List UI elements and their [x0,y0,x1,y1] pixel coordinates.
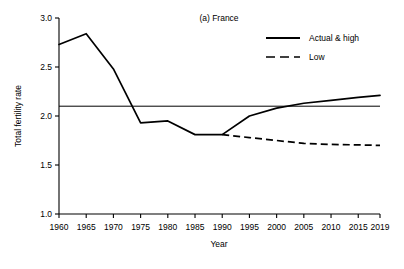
x-tick-label: 2005 [294,222,313,232]
x-tick-label: 1985 [186,222,205,232]
panel-title: (a) France [199,13,238,23]
y-axis-title: Total fertility rate [13,85,23,147]
y-tick-label: 2.5 [40,62,52,72]
legend-label-actual-and-high: Actual & high [309,33,359,43]
x-tick-label: 2000 [267,222,286,232]
chart-figure: 1.01.52.02.53.0 196019651970197519801985… [0,0,404,269]
y-tick-label: 2.0 [40,111,52,121]
x-tick-label: 1995 [240,222,259,232]
x-tick-label: 1980 [158,222,177,232]
x-tick-label: 2010 [322,222,341,232]
fertility-rate-line-chart: 1.01.52.02.53.0 196019651970197519801985… [0,0,404,269]
x-tick-label: 1970 [104,222,123,232]
y-tick-label: 1.5 [40,160,52,170]
x-tick-label: 1960 [50,222,69,232]
x-tick-label: 1990 [213,222,232,232]
legend-label-low: Low [309,52,325,62]
x-tick-label: 2015 [349,222,368,232]
x-tick-label: 1965 [77,222,96,232]
y-tick-label: 1.0 [40,209,52,219]
x-axis-title: Year [210,239,227,249]
x-tick-label: 2019 [371,222,390,232]
y-tick-label: 3.0 [40,13,52,23]
x-tick-label: 1975 [131,222,150,232]
